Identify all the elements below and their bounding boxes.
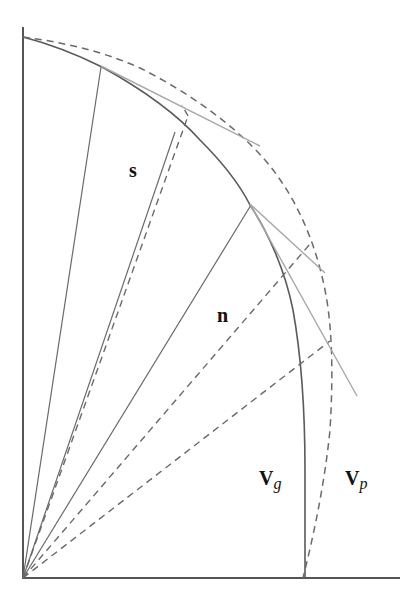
group-velocity-curve: [23, 37, 305, 578]
label-vg-main: V: [259, 467, 273, 489]
velocity-surface-diagram: [0, 0, 416, 602]
group-ray-3: [23, 205, 251, 578]
label-s: s: [129, 160, 137, 180]
tangent-line-3: [250, 204, 357, 396]
tangent-line-2: [250, 204, 325, 273]
group-ray-2: [23, 132, 175, 578]
phase-ray-3: [23, 341, 330, 578]
label-n: n: [217, 305, 228, 325]
phase-ray-1: [23, 116, 188, 578]
label-vp-main: V: [345, 467, 359, 489]
label-vg-sub: g: [273, 475, 281, 492]
label-vp: Vp: [345, 468, 367, 488]
tangent-line-1: [101, 66, 260, 146]
label-vg: Vg: [259, 468, 281, 488]
label-vp-sub: p: [359, 475, 367, 492]
